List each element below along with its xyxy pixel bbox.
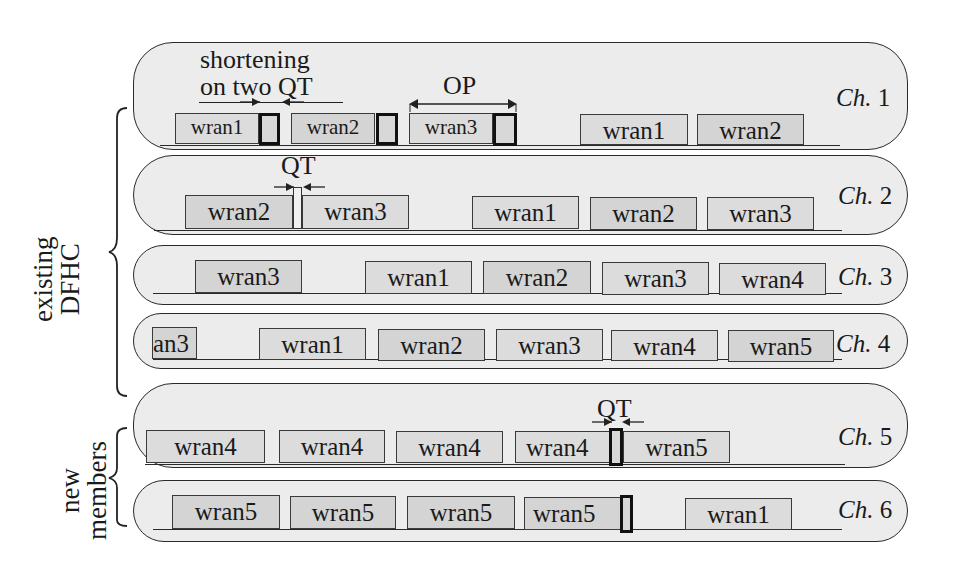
slot-label: wran5 [645,434,707,461]
channel-label-3: Ch. 3 [838,263,892,291]
channel-number: 4 [878,330,891,357]
quiet-time-block [620,495,633,533]
slot-label: wran4 [741,266,803,293]
slot-label: an3 [153,330,189,357]
channel-prefix: Ch. [838,423,873,450]
quiet-time-block [259,113,280,145]
slot-box: wran4 [719,263,826,295]
slot-box: wran5 [623,431,730,463]
slot-label: wran2 [208,198,270,225]
slot-label: wran5 [750,333,812,360]
slot-box: wran2 [697,114,804,145]
slot-label: wran4 [526,434,588,461]
brace-new-members-icon [105,428,135,528]
quiet-time-gap [293,187,302,229]
slot-box: wran2 [378,329,485,361]
timeline-baseline [154,230,842,231]
quiet-time-block [376,113,398,145]
slot-box-truncated: an3 [152,327,197,359]
slot-box: wran1 [365,261,472,294]
slot-label: wran2 [719,117,781,144]
slot-box: wran1 [175,113,259,144]
slot-label: wran1 [281,331,343,358]
slot-box: wran4 [396,431,503,463]
slot-box: wran3 [409,113,493,144]
slot-label: wran5 [533,500,595,527]
slot-box: wran2 [483,261,591,294]
slot-box: wran4 [146,430,265,463]
slot-label: wran4 [633,333,695,360]
channel-label-2: Ch. 2 [838,182,892,210]
slot-box: wran1 [259,328,366,360]
annotation-op: OP [443,73,476,99]
group-label-line: DFHC [57,237,84,323]
slot-box: wran4 [279,430,385,463]
slot-label: wran3 [425,115,477,139]
slot-label: wran4 [174,433,236,460]
slot-label: wran1 [707,501,769,528]
slot-box: wran4 [515,431,620,463]
slot-label: wran5 [195,498,257,525]
slot-label: wran3 [217,263,279,290]
channel-number: 2 [880,182,893,209]
group-label-new-members: new members [57,441,111,540]
slot-box: wran3 [302,195,409,229]
slot-box: wran2 [590,197,697,230]
channel-prefix: Ch. [838,182,873,209]
channel-prefix: Ch. [838,263,873,290]
annotation-shortening: shortening [200,47,310,73]
slot-label: wran3 [324,198,386,225]
slot-box: wran4 [611,330,718,361]
slot-box: wran1 [580,114,688,145]
slot-label: wran3 [729,200,791,227]
channel-prefix: Ch. [838,496,873,523]
slot-label: wran1 [603,117,665,144]
slot-box: wran5 [172,495,280,529]
slot-box: wran2 [291,113,375,144]
slot-box: wran3 [195,260,302,293]
slot-box: wran5 [524,497,632,530]
slot-label: wran1 [387,264,449,291]
quiet-time-block [493,113,517,146]
slot-box: wran5 [290,496,396,529]
slot-label: wran1 [191,115,243,139]
annotation-qt: QT [281,153,316,179]
channel-label-4: Ch. 4 [836,330,890,358]
annotation-on-two-qt: on two QT [200,74,313,100]
double-arrow-op-icon [409,98,519,110]
arrow-left-icon [303,183,327,193]
slot-label: wran4 [418,434,480,461]
channel-prefix: Ch. [836,84,871,111]
slot-box: wran5 [407,496,515,529]
channel-number: 6 [880,496,893,523]
slot-label: wran3 [624,265,686,292]
group-label-line: existing [30,237,57,323]
slot-label: wran1 [494,199,556,226]
channel-number: 1 [878,84,891,111]
slot-label: wran2 [307,115,359,139]
slot-label: wran5 [312,499,374,526]
slot-box: wran3 [496,329,603,361]
channel-prefix: Ch. [836,330,871,357]
channel-number: 3 [880,263,893,290]
arrow-right-icon [592,418,616,428]
arrow-left-icon [622,418,646,428]
slot-box: wran1 [685,498,792,530]
slot-label: wran2 [612,200,674,227]
annotation-underline [199,102,343,103]
channel-label-6: Ch. 6 [838,496,892,524]
channel-label-1: Ch. 1 [836,84,890,112]
arrow-left-icon [282,98,312,108]
arrow-right-icon [240,98,270,108]
timeline-baseline [145,464,845,465]
channel-number: 5 [880,423,893,450]
slot-box: wran2 [185,195,293,229]
slot-box: wran5 [728,330,834,362]
slot-label: wran3 [518,332,580,359]
slot-label: wran2 [400,332,462,359]
group-label-line: new [57,441,84,540]
group-label-existing-dfhc: existing DFHC [30,237,84,323]
slot-box: wran3 [602,262,709,295]
slot-label: wran4 [301,433,363,460]
slot-box: wran3 [707,197,814,230]
